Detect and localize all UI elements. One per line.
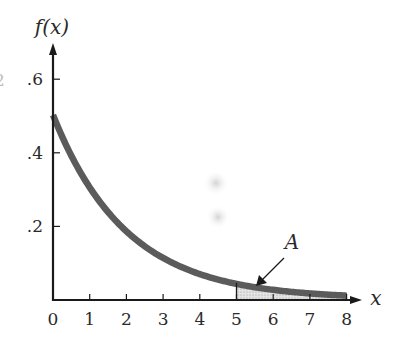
y-axis-title: f(x) [33,15,69,39]
x-tick-label: 0 [48,309,59,329]
x-tick-label: 2 [121,309,132,329]
y-tick-label: .6 [27,69,43,89]
x-axis-arrow-icon [350,296,362,304]
x-tick-label: 3 [158,309,169,329]
y-ticks: .2.4.6 [27,69,60,236]
x-tick-label: 6 [268,309,279,329]
axes [49,43,362,304]
y-tick-label: .4 [27,143,43,163]
y-tick-label: .2 [27,216,43,236]
x-tick-label: 8 [341,309,352,329]
y-axis-arrow-icon [49,43,57,55]
edge-fragment: 2 [0,70,5,90]
x-tick-label: 4 [194,309,205,329]
scan-speckles [203,170,230,229]
x-tick-label: 7 [304,309,315,329]
exponential-density-chart: 2 012345678 .2.4.6 f(x) x A [0,0,397,346]
annotation-arrow-icon [256,258,284,286]
x-tick-label: 1 [84,309,95,329]
x-tick-label: 5 [231,309,242,329]
x-axis-title: x [370,286,381,310]
region-a-label: A [283,230,299,254]
density-curve [53,115,347,296]
